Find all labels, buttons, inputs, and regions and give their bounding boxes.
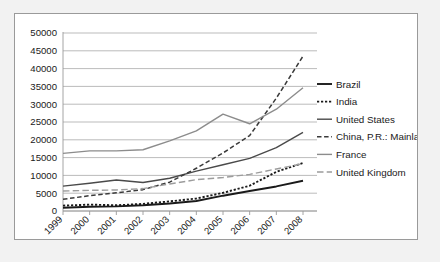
series-line-china-p-r-mainland bbox=[63, 56, 303, 199]
legend-label-india: India bbox=[336, 96, 358, 107]
legend-label-united-states: United States bbox=[336, 114, 395, 125]
legend-label-united-kingdom: United Kingdom bbox=[336, 167, 406, 178]
y-axis-tick-labels: 5000045000400003500030000250002000015000… bbox=[30, 27, 57, 216]
y-axis-tick-label: 30000 bbox=[30, 99, 57, 110]
x-axis-tick-labels: 1999200020012002200320042005200620072008 bbox=[42, 213, 305, 236]
x-axis-tick-label: 2007 bbox=[255, 214, 278, 237]
gridlines-group bbox=[63, 33, 317, 211]
y-axis-tick-label: 35000 bbox=[30, 81, 57, 92]
y-axis-tick-label: 5000 bbox=[36, 188, 57, 199]
line-chart: 5000045000400003500030000250002000015000… bbox=[15, 14, 417, 239]
x-axis-tick-marks bbox=[63, 211, 303, 215]
x-axis-tick-label: 2006 bbox=[228, 214, 251, 237]
y-axis-tick-label: 25000 bbox=[30, 116, 57, 127]
y-axis-tick-label: 10000 bbox=[30, 170, 57, 181]
series-line-united-states bbox=[63, 132, 303, 186]
legend-label-brazil: Brazil bbox=[336, 79, 361, 90]
chart-figure: 5000045000400003500030000250002000015000… bbox=[14, 13, 418, 240]
chart-legend: BrazilIndiaUnited StatesChina, P.R.: Mai… bbox=[317, 79, 417, 178]
x-axis-tick-label: 2003 bbox=[148, 214, 171, 237]
x-axis-tick-label: 2004 bbox=[175, 213, 198, 236]
legend-label-china-p-r-mainland: China, P.R.: Mainland bbox=[336, 131, 417, 142]
x-axis-tick-label: 2001 bbox=[95, 214, 118, 237]
series-line-france bbox=[63, 88, 303, 154]
x-axis-tick-label: 2002 bbox=[122, 214, 145, 237]
x-axis-tick-label: 2008 bbox=[282, 214, 305, 237]
series-line-united-kingdom bbox=[63, 164, 303, 191]
x-axis-tick-label: 2005 bbox=[202, 214, 225, 237]
series-line-india bbox=[63, 163, 303, 206]
y-axis-tick-label: 50000 bbox=[30, 27, 57, 38]
x-axis-tick-label: 2000 bbox=[68, 214, 91, 237]
y-axis-tick-label: 20000 bbox=[30, 134, 57, 145]
x-axis-tick-label: 1999 bbox=[42, 214, 65, 237]
legend-label-france: France bbox=[336, 149, 367, 160]
y-axis-tick-label: 40000 bbox=[30, 63, 57, 74]
y-axis-tick-label: 15000 bbox=[30, 152, 57, 163]
y-axis-tick-label: 45000 bbox=[30, 45, 57, 56]
series-lines-group bbox=[63, 56, 303, 208]
